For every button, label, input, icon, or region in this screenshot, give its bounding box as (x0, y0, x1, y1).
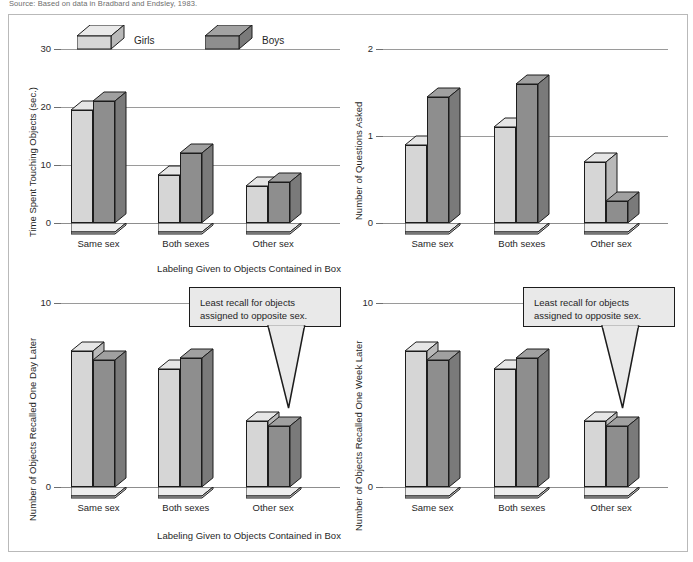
bar-base-other-sex (246, 223, 303, 236)
y-tick-mark (54, 165, 61, 166)
bar-base-same-sex (71, 223, 128, 236)
plot-area-recall-one-week: 010Same sexBoth sexesOther sexLeast reca… (383, 303, 651, 487)
legend-label-girls: Girls (134, 35, 155, 46)
y-tick-mark (54, 303, 61, 304)
y-tick-mark (54, 223, 61, 224)
callout-text-line1: Least recall for objects (534, 296, 629, 309)
y-tick-mark (376, 223, 383, 224)
legend-swatch-boys (205, 25, 254, 51)
bar-recall-one-week-same-sex-boys (427, 351, 460, 487)
bar-base-same-sex (71, 487, 128, 500)
bar-time-touching-other-sex-boys (268, 173, 301, 223)
plot-area-time-touching: 0102030Same sexBoth sexesOther sexGirlsB… (61, 49, 323, 223)
callout-text-line2: assigned to opposite sex. (534, 309, 641, 322)
y-tick-mark (376, 49, 383, 50)
chart-panel-recall-one-day: 010Same sexBoth sexesOther sexLeast reca… (9, 273, 349, 551)
callout-text-line1: Least recall for objects (200, 296, 295, 309)
y-tick-label: 2 (349, 43, 373, 54)
category-label-same-sex: Same sex (391, 238, 474, 249)
figure-frame: 0102030Same sexBoth sexesOther sexGirlsB… (8, 14, 688, 552)
bar-questions-asked-other-sex-boys (606, 192, 639, 223)
bar-base-same-sex (405, 223, 462, 236)
chart-panel-recall-one-week: 010Same sexBoth sexesOther sexLeast reca… (339, 273, 689, 551)
category-label-same-sex: Same sex (391, 502, 474, 513)
chart-panel-questions-asked: 012Same sexBoth sexesOther sex Number of… (339, 15, 689, 277)
bar-recall-one-day-other-sex-boys (268, 417, 301, 487)
bar-base-both-sexes (158, 487, 215, 500)
gridline-2 (383, 49, 668, 50)
bar-questions-asked-same-sex-boys (427, 88, 460, 223)
y-tick-mark (376, 303, 383, 304)
bar-time-touching-both-sexes-boys (180, 144, 213, 223)
y-axis-label-recall-one-day: Number of Objects Recalled One Day Later (27, 338, 38, 521)
y-tick-label: 30 (27, 43, 51, 54)
y-tick-mark (376, 487, 383, 488)
y-axis-label-time-touching: Time Spent Touching Objects (sec.) (27, 87, 38, 237)
category-label-same-sex: Same sex (57, 502, 140, 513)
y-tick-label: 10 (349, 297, 373, 308)
bar-base-both-sexes (494, 487, 551, 500)
chart-panel-time-touching: 0102030Same sexBoth sexesOther sexGirlsB… (9, 15, 349, 277)
bar-base-other-sex (246, 487, 303, 500)
bar-recall-one-day-same-sex-boys (93, 351, 126, 487)
category-label-other-sex: Other sex (232, 238, 315, 249)
y-axis-label-recall-one-week: Number of Objects Recalled One Week Late… (353, 341, 364, 531)
bar-time-touching-same-sex-boys (93, 92, 126, 223)
y-axis-label-questions-asked: Number of Questions Asked (353, 102, 364, 220)
category-label-other-sex: Other sex (232, 502, 315, 513)
bar-base-same-sex (405, 487, 462, 500)
category-label-same-sex: Same sex (57, 238, 140, 249)
category-label-other-sex: Other sex (570, 502, 653, 513)
y-tick-mark (54, 107, 61, 108)
category-label-both-sexes: Both sexes (144, 502, 227, 513)
bar-base-other-sex (584, 223, 641, 236)
plot-area-recall-one-day: 010Same sexBoth sexesOther sexLeast reca… (61, 303, 323, 487)
plot-area-questions-asked: 012Same sexBoth sexesOther sex (383, 49, 651, 223)
bar-questions-asked-both-sexes-boys (516, 75, 549, 223)
category-label-both-sexes: Both sexes (144, 238, 227, 249)
category-label-both-sexes: Both sexes (480, 238, 563, 249)
legend-swatch-girls (77, 25, 126, 51)
bar-base-other-sex (584, 487, 641, 500)
category-label-both-sexes: Both sexes (480, 502, 563, 513)
bar-base-both-sexes (158, 223, 215, 236)
bar-recall-one-week-other-sex-boys (606, 417, 639, 487)
y-tick-mark (54, 487, 61, 488)
source-note: Source: Based on data in Bradbard and En… (9, 0, 197, 8)
bar-base-both-sexes (494, 223, 551, 236)
callout-text-line2: assigned to opposite sex. (200, 309, 307, 322)
y-tick-label: 10 (27, 297, 51, 308)
y-tick-mark (54, 49, 61, 50)
category-label-other-sex: Other sex (570, 238, 653, 249)
legend-label-boys: Boys (262, 35, 284, 46)
y-tick-mark (376, 136, 383, 137)
